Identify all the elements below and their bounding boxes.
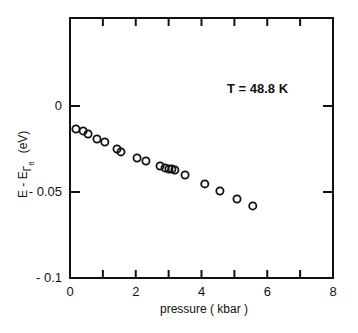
x-tick-label: 8 bbox=[329, 284, 336, 299]
x-axis-title: pressure ( kbar ) bbox=[160, 302, 248, 316]
data-point bbox=[93, 135, 100, 142]
plot-frame bbox=[70, 18, 333, 278]
y-axis-label-main: E - E bbox=[16, 171, 30, 198]
data-point bbox=[201, 180, 208, 187]
data-point bbox=[72, 125, 79, 132]
data-point bbox=[101, 138, 108, 145]
tick-labels: 024680- 0.05- 0.1 bbox=[29, 98, 337, 299]
data-point bbox=[181, 171, 188, 178]
axis-ticks bbox=[70, 18, 333, 278]
data-point bbox=[133, 154, 140, 161]
data-point bbox=[216, 187, 223, 194]
data-point bbox=[233, 195, 240, 202]
data-points bbox=[72, 125, 256, 209]
data-point bbox=[142, 157, 149, 164]
y-tick-label: 0 bbox=[55, 98, 62, 113]
temperature-annotation: T = 48.8 K bbox=[227, 81, 289, 96]
x-tick-label: 6 bbox=[264, 284, 271, 299]
scatter-chart: 024680- 0.05- 0.1 T = 48.8 K pressure ( … bbox=[0, 0, 358, 333]
x-tick-label: 0 bbox=[66, 284, 73, 299]
y-tick-label: - 0.05 bbox=[29, 184, 62, 199]
x-tick-label: 4 bbox=[198, 284, 205, 299]
y-tick-label: - 0.1 bbox=[36, 270, 62, 285]
y-axis-label-unit: (eV) bbox=[16, 131, 30, 154]
x-tick-label: 2 bbox=[132, 284, 139, 299]
y-axis-label-subsub: 6 bbox=[27, 161, 36, 166]
data-point bbox=[249, 202, 256, 209]
